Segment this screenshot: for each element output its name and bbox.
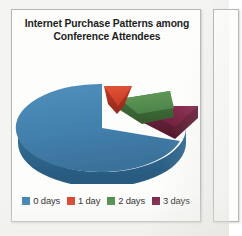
- legend-swatch-3-days: [152, 197, 160, 205]
- legend-swatch-2-days: [107, 197, 115, 205]
- legend-label-0-days: 0 days: [33, 196, 60, 206]
- legend-item-2-days[interactable]: 2 days: [107, 196, 145, 206]
- legend-label-2-days: 2 days: [118, 196, 145, 206]
- chart-title: Internet Purchase Patterns among Confere…: [18, 17, 196, 43]
- legend-swatch-0-days: [22, 197, 30, 205]
- legend-item-3-days[interactable]: 3 days: [152, 196, 190, 206]
- pie-chart-plot-area: [12, 44, 200, 184]
- legend-label-3-days: 3 days: [163, 196, 190, 206]
- adjacent-figure-panel: [213, 9, 229, 222]
- chart-figure-card: Internet Purchase Patterns among Confere…: [11, 9, 201, 222]
- chart-legend: 0 days 1 day 2 days 3 days: [12, 196, 200, 206]
- chart-title-line-1: Internet Purchase Patterns among: [25, 18, 189, 29]
- legend-item-0-days[interactable]: 0 days: [22, 196, 60, 206]
- pie-chart-svg: [12, 44, 200, 184]
- legend-swatch-1-day: [67, 197, 75, 205]
- chart-title-line-2: Conference Attendees: [54, 31, 161, 42]
- legend-item-1-day[interactable]: 1 day: [67, 196, 100, 206]
- legend-label-1-day: 1 day: [78, 196, 100, 206]
- scanned-page: Internet Purchase Patterns among Confere…: [0, 0, 229, 236]
